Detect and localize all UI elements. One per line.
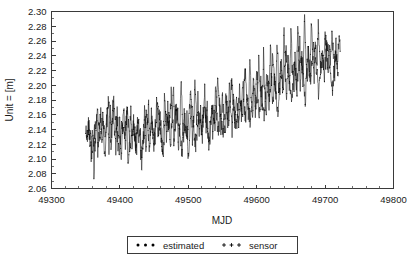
x-tick-label: 49700 xyxy=(312,194,338,205)
x-tick-label: 49300 xyxy=(38,194,64,205)
y-tick-label: 2.06 xyxy=(28,183,47,194)
legend-dot xyxy=(137,244,140,247)
x-tick-label: 49600 xyxy=(243,194,269,205)
legend-dot xyxy=(144,244,147,247)
y-tick-label: 2.24 xyxy=(28,50,47,61)
y-tick-label: 2.16 xyxy=(28,109,47,120)
y-tick-label: 2.10 xyxy=(28,153,47,164)
y-tick-label: 2.18 xyxy=(28,94,47,105)
y-tick-label: 2.26 xyxy=(28,35,47,46)
timeseries-chart: 2.062.082.102.122.142.162.182.202.222.24… xyxy=(0,0,412,260)
legend-label-estimated: estimated xyxy=(163,240,204,251)
chart-figure: 2.062.082.102.122.142.162.182.202.222.24… xyxy=(0,0,412,260)
y-tick-label: 2.14 xyxy=(28,124,47,135)
y-tick-label: 2.22 xyxy=(28,65,47,76)
x-tick-label: 49800 xyxy=(380,194,406,205)
y-tick-label: 2.28 xyxy=(28,21,47,32)
y-tick-label: 2.08 xyxy=(28,168,47,179)
x-tick-label: 49400 xyxy=(107,194,133,205)
x-axis-title: MJD xyxy=(212,215,233,226)
legend-label-sensor: sensor xyxy=(249,240,278,251)
y-tick-label: 2.12 xyxy=(28,139,47,150)
y-tick-label: 2.20 xyxy=(28,80,47,91)
legend-dot xyxy=(152,244,155,247)
y-axis-title: Unit = [m] xyxy=(4,78,15,121)
y-tick-label: 2.30 xyxy=(28,6,47,17)
chart-legend: estimated sensor xyxy=(128,237,298,254)
x-tick-label: 49500 xyxy=(175,194,201,205)
